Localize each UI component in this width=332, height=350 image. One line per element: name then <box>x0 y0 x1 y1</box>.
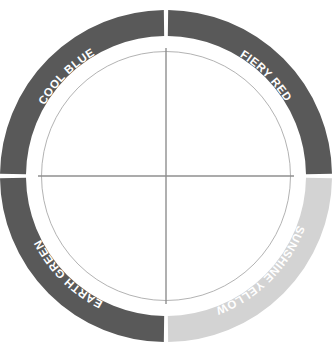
wheel-segment-earth-green[interactable] <box>13 178 164 329</box>
color-wheel-figure: COOL BLUE FIERY RED SUNSHINE YELLOW EART… <box>0 0 332 350</box>
wheel-segment-fiery-red[interactable] <box>168 23 319 174</box>
wheel-segment-cool-blue[interactable] <box>13 23 164 174</box>
wheel-segment-sunshine-yellow[interactable] <box>168 178 319 329</box>
color-wheel-svg: COOL BLUE FIERY RED SUNSHINE YELLOW EART… <box>0 0 332 350</box>
